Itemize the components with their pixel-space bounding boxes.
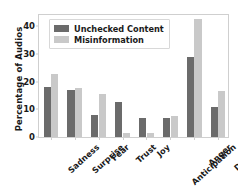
y-tick-mark [36, 81, 39, 82]
bar-group [182, 15, 206, 137]
bar-surprise-unchecked-content [67, 90, 74, 137]
x-tick-mark [146, 137, 147, 140]
bar-sadness-unchecked-content [44, 87, 51, 137]
x-tick-label-joy: Joy [155, 142, 172, 159]
bar-surprise-misinformation [75, 88, 82, 137]
legend-label: Misinformation [74, 35, 144, 45]
plot-area: 010203040 SadnessSurpriseFearTrustJoyAnt… [38, 14, 229, 138]
bar-anticipation-misinformation [171, 116, 178, 137]
x-tick-label-fear: Fear [109, 142, 131, 163]
bar-anger-unchecked-content [187, 57, 194, 137]
y-tick-mark [36, 109, 39, 110]
bar-joy-misinformation [147, 133, 154, 137]
legend-swatch-icon [54, 36, 69, 43]
bar-sadness-misinformation [51, 74, 58, 137]
x-tick-mark [123, 137, 124, 140]
bar-anger-misinformation [194, 19, 201, 137]
legend-label: Unchecked Content [74, 24, 164, 34]
bar-anticipation-unchecked-content [163, 118, 170, 137]
bar-trust-misinformation [123, 133, 130, 137]
legend-item-misinformation: Misinformation [54, 34, 164, 45]
x-tick-mark [194, 137, 195, 140]
chart-figure: Percentage of Audios 010203040 SadnessSu… [0, 0, 238, 193]
x-tick-mark [75, 137, 76, 140]
bar-disgust-unchecked-content [211, 107, 218, 137]
y-tick-mark [36, 26, 39, 27]
y-tick-mark [36, 53, 39, 54]
y-tick-mark [36, 137, 39, 138]
chart-legend: Unchecked Content Misinformation [49, 19, 170, 49]
legend-swatch-icon [54, 25, 69, 32]
bar-fear-unchecked-content [91, 115, 98, 137]
x-tick-mark [218, 137, 219, 140]
legend-item-unchecked-content: Unchecked Content [54, 23, 164, 34]
x-tick-mark [170, 137, 171, 140]
x-tick-label-trust: Trust [134, 142, 158, 165]
x-tick-mark [99, 137, 100, 140]
bar-group [206, 15, 228, 137]
bar-trust-unchecked-content [115, 102, 122, 137]
bar-fear-misinformation [99, 94, 106, 137]
bar-disgust-misinformation [218, 91, 225, 137]
bar-joy-unchecked-content [139, 118, 146, 137]
x-tick-mark [51, 137, 52, 140]
